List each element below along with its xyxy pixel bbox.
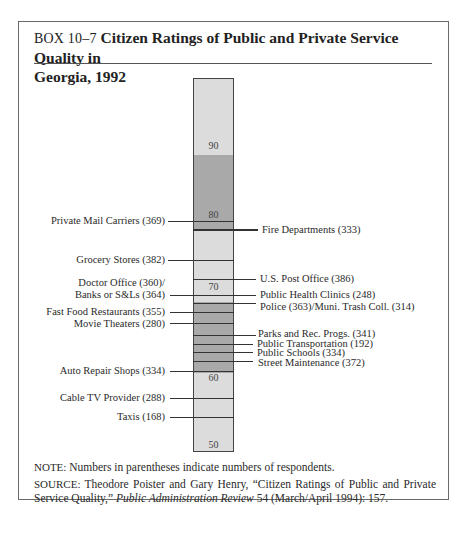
label-private-mail: Private Mail Carriers (369)	[51, 215, 165, 227]
tick-70: 70	[193, 281, 234, 292]
box-heading: BOX 10–7 Citizen Ratings of Public and P…	[34, 28, 434, 86]
leader-taxis	[170, 417, 234, 418]
leader-post-office	[193, 279, 256, 280]
leader-private-mail	[168, 221, 234, 222]
leader-streets	[193, 361, 253, 362]
title-rule	[34, 63, 432, 64]
note-text: Numbers in parentheses indicate numbers …	[66, 461, 334, 473]
label-auto: Auto Repair Shops (334)	[60, 365, 165, 377]
footnote: NOTE: Numbers in parentheses indicate nu…	[34, 460, 436, 474]
label-doctor: Doctor Office (360)/	[78, 277, 165, 289]
label-taxis: Taxis (168)	[117, 411, 165, 423]
leader-schools	[193, 352, 253, 353]
source-label: SOURCE:	[34, 478, 80, 490]
leader-movie	[170, 323, 234, 324]
label-fire: Fire Departments (333)	[262, 224, 361, 236]
source-citation: SOURCE: Theodore Poister and Gary Henry,…	[34, 477, 436, 505]
label-cable: Cable TV Provider (288)	[60, 392, 165, 404]
leader-fast-food	[170, 312, 234, 313]
tick-80: 80	[193, 209, 234, 220]
leader-health-clinics	[193, 295, 256, 296]
label-banks: Banks or S&Ls (364)	[75, 289, 165, 301]
label-post-office: U.S. Post Office (386)	[260, 273, 354, 285]
label-fast-food: Fast Food Restaurants (355)	[46, 306, 165, 318]
label-movie: Movie Theaters (280)	[74, 318, 165, 330]
leader-transport	[193, 344, 253, 345]
leader-cable	[170, 398, 234, 399]
label-health-clinics: Public Health Clinics (248)	[260, 289, 375, 301]
tick-60: 60	[193, 372, 234, 383]
source-journal: Public Administration Review	[116, 492, 254, 504]
label-grocery: Grocery Stores (382)	[76, 254, 165, 266]
note-label: NOTE:	[34, 461, 66, 473]
leader-parks	[193, 335, 256, 336]
leader-fire	[193, 229, 258, 231]
tick-50: 50	[193, 439, 234, 450]
leader-police	[193, 303, 256, 304]
box-number: BOX 10–7	[34, 31, 97, 46]
leader-auto	[170, 371, 234, 372]
label-streets: Street Maintenance (372)	[258, 357, 365, 369]
leader-grocery	[168, 260, 234, 261]
label-police: Police (363)/Muni. Trash Coll. (314)	[260, 301, 415, 313]
rating-scale-bar	[193, 78, 234, 452]
tick-90: 90	[193, 140, 234, 151]
light-band-middle	[194, 230, 233, 303]
